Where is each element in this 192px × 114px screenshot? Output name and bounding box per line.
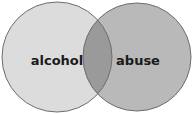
venn-diagram: alcohol abuse — [0, 0, 192, 114]
label-alcohol: alcohol — [31, 53, 84, 68]
label-abuse: abuse — [116, 53, 160, 68]
